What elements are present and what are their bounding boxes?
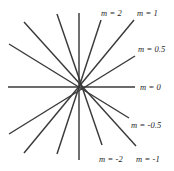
slope-label-m-1: m = 1 — [137, 9, 158, 18]
slope-label-m-negative-2: m = -2 — [99, 155, 123, 164]
slope-label-m-0: m = 0 — [140, 83, 161, 92]
line-group — [8, 13, 136, 160]
slope-line — [9, 44, 129, 118]
slope-label-m-negative-0-5: m = -0.5 — [131, 121, 161, 130]
slope-label-m-0-5: m = 0.5 — [138, 45, 165, 54]
pencil-of-lines-figure: m = 2 m = 1 m = 0.5 m = 0 m = -0.5 m = -… — [0, 0, 174, 171]
slope-label-m-2: m = 2 — [101, 9, 122, 18]
slope-line — [24, 22, 136, 146]
slope-label-m-negative-1: m = -1 — [136, 155, 160, 164]
slope-line — [9, 56, 135, 134]
